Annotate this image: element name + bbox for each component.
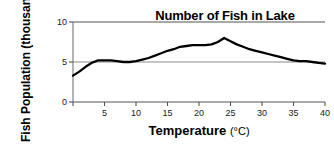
svg-text:20: 20 [194, 108, 204, 118]
svg-text:35: 35 [288, 108, 298, 118]
svg-text:30: 30 [257, 108, 267, 118]
svg-text:10: 10 [131, 108, 141, 118]
svg-text:40: 40 [320, 108, 330, 118]
svg-text:25: 25 [225, 108, 235, 118]
x-tick-labels: 510152025303540 [102, 108, 330, 118]
chart-figure: Number of Fish in Lake Fish Population (… [0, 0, 334, 147]
gridlines [73, 22, 325, 102]
svg-text:10: 10 [57, 17, 67, 27]
svg-text:15: 15 [162, 108, 172, 118]
plot-area: 0510 510152025303540 [0, 0, 334, 147]
svg-text:0: 0 [62, 97, 67, 107]
data-line-fish-population [73, 38, 325, 76]
svg-text:5: 5 [102, 108, 107, 118]
y-tick-labels: 0510 [57, 17, 67, 107]
svg-text:5: 5 [62, 57, 67, 67]
